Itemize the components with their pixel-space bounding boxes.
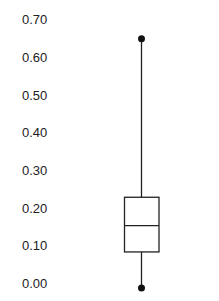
box-plot-chart: 0.70 0.60 0.50 0.40 0.30 0.20 0.10 0.00 bbox=[0, 0, 219, 301]
iqr-box bbox=[125, 197, 160, 252]
min-point bbox=[138, 285, 145, 292]
plot-area bbox=[0, 0, 219, 301]
max-point bbox=[138, 35, 145, 42]
